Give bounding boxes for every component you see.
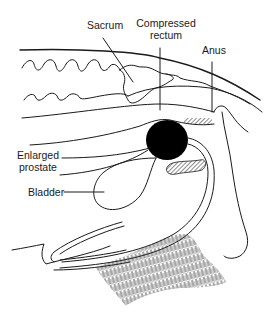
dorsal-outline <box>20 49 260 100</box>
rectum-lower <box>22 104 214 118</box>
ventral-outline <box>222 112 248 258</box>
label-compressed-rectum-line1: Compressed <box>135 17 197 29</box>
sacrum-leader <box>103 38 133 82</box>
label-compressed-rectum: Compressed rectum <box>135 17 197 41</box>
label-enlarged-prostate-line1: Enlarged <box>14 149 62 161</box>
label-sacrum: Sacrum <box>87 19 123 31</box>
sacrum <box>120 65 173 103</box>
vertebrae-lower <box>24 93 128 100</box>
label-enlarged-prostate: Enlarged prostate <box>14 149 62 173</box>
enlarged-prostate <box>146 120 188 160</box>
bladder <box>94 158 156 210</box>
urethra-upper <box>60 150 148 175</box>
vertebrae-upper <box>22 60 120 71</box>
rectum-upper <box>128 86 262 112</box>
label-bladder: Bladder <box>28 186 64 198</box>
label-anus: Anus <box>202 44 226 56</box>
anal-gland-hatch <box>184 118 212 124</box>
hatched-structure <box>166 160 205 175</box>
label-enlarged-prostate-line2: prostate <box>14 161 62 173</box>
anus-outline <box>214 106 248 132</box>
label-compressed-rectum-line2: rectum <box>135 29 197 41</box>
sacrum-extension <box>166 74 250 104</box>
sheath-loop1 <box>51 222 122 262</box>
sheath-loop2 <box>60 226 124 254</box>
fur-area <box>96 234 226 306</box>
